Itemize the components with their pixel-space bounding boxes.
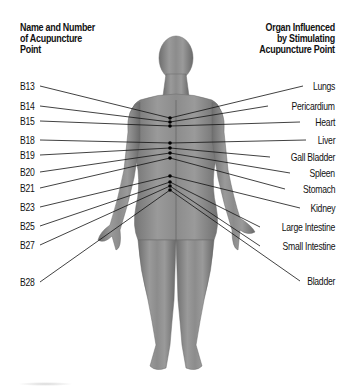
point-label-b18: B18 (20, 134, 35, 146)
point-label-b13: B13 (20, 80, 35, 92)
point-label-b19: B19 (20, 149, 35, 161)
organ-label-small-intestine: Small Intestine (282, 240, 335, 252)
organ-label-lungs: Lungs (313, 80, 335, 92)
point-label-b23: B23 (20, 201, 35, 213)
organ-label-heart: Heart (315, 116, 335, 128)
organ-label-kidney: Kidney (310, 202, 335, 214)
decorative-shadow (18, 382, 73, 386)
acupuncture-dot-b19 (168, 146, 172, 150)
acupuncture-dot-b25 (168, 180, 172, 184)
organ-label-large-intestine: Large Intestine (282, 221, 335, 233)
organ-label-stomach: Stomach (303, 183, 335, 195)
point-label-b20: B20 (20, 166, 35, 178)
acupuncture-dot-b28 (168, 188, 172, 192)
right-leg (176, 240, 214, 370)
point-label-b14: B14 (20, 100, 35, 112)
acupuncture-dot-b15 (168, 124, 172, 128)
acupuncture-dot-b21 (168, 156, 172, 160)
point-label-b15: B15 (20, 115, 35, 127)
acupuncture-dot-b18 (168, 141, 172, 145)
point-label-b21: B21 (20, 182, 35, 194)
point-label-b25: B25 (20, 220, 35, 232)
acupuncture-dot-b14 (168, 120, 172, 124)
acupuncture-dot-b27 (168, 184, 172, 188)
organ-label-pericardium: Pericardium (292, 100, 335, 112)
acupuncture-dot-b13 (168, 116, 172, 120)
head (159, 36, 193, 80)
acupuncture-dot-b20 (168, 151, 172, 155)
organ-label-gall-bladder: Gall Bladder (291, 151, 335, 163)
neck (163, 74, 189, 96)
organ-label-bladder: Bladder (307, 275, 335, 287)
human-figure-back-view (98, 36, 255, 370)
point-label-b27: B27 (20, 239, 35, 251)
left-leg (138, 240, 176, 370)
acupuncture-dot-b23 (168, 174, 172, 178)
organ-label-liver: Liver (318, 134, 335, 146)
organ-label-spleen: Spleen (310, 167, 335, 179)
point-label-b28: B28 (20, 276, 35, 288)
